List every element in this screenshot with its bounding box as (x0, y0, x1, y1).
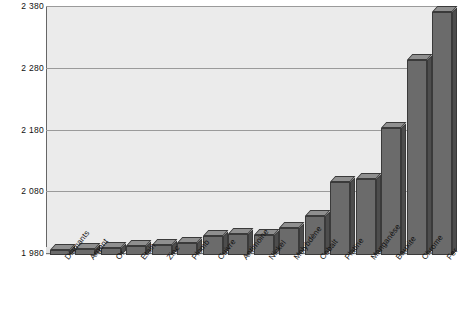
bar (432, 12, 452, 255)
bar-front-face (407, 60, 427, 255)
y-tick-label: 2 280 (4, 63, 44, 73)
x-axis-ticks: DiamantsArgentOrEtainZincPlombCuivreAnti… (47, 256, 454, 310)
bar-series (47, 6, 454, 255)
y-tick-label: 2 180 (4, 125, 44, 135)
y-tick-label: 2 080 (4, 186, 44, 196)
bar-side-face (452, 7, 457, 255)
bar (407, 60, 427, 255)
y-tick-label: 2 380 (4, 1, 44, 11)
y-tick-label: 1 980 (4, 248, 44, 258)
bar-front-face (432, 12, 452, 255)
bar-chart: 1 9802 0802 1802 2802 380 DiamantsArgent… (0, 0, 462, 310)
